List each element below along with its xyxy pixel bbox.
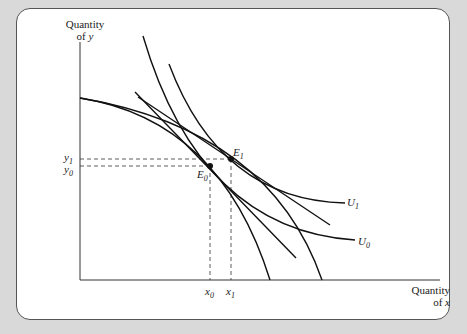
y-axis-label: Quantity of y — [60, 18, 110, 42]
label-e1: E1 — [233, 146, 244, 163]
point-e0 — [207, 163, 213, 169]
indifference-curve-u1 — [169, 64, 345, 203]
label-u0: U0 — [358, 235, 370, 252]
label-e0: E0 — [197, 168, 208, 185]
price-line-0 — [135, 92, 296, 258]
x-axis-label: Quantity of x — [400, 284, 450, 308]
tick-x1: x1 — [226, 285, 235, 302]
tick-y0: y0 — [64, 163, 73, 180]
label-u1: U1 — [347, 196, 359, 213]
tick-x0: x0 — [205, 285, 214, 302]
